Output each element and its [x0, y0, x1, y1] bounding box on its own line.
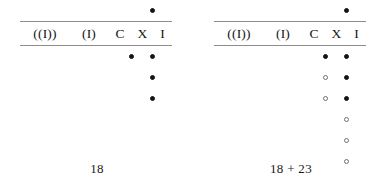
counter-lower-x: [124, 46, 138, 67]
abacus-board-right: ((I)) (I) C X I: [214, 21, 366, 149]
counter-lower-i: [145, 46, 159, 109]
counter-slot: [145, 0, 159, 21]
counter-upper-x: [124, 0, 138, 21]
abacus-board-left: ((I)) (I) C X I: [20, 21, 172, 149]
counter-slot: [145, 88, 159, 109]
counter-upper-x: [318, 0, 332, 21]
counter-stacks-left: [20, 21, 172, 149]
counter-lower-i: [339, 46, 353, 172]
open-counter-icon: [323, 96, 328, 101]
open-counter-icon: [344, 117, 349, 122]
abacus-panel-left: ((I)) (I) C X I: [0, 0, 194, 193]
counter-stacks-right: [214, 21, 366, 149]
counter-upper-c: [295, 0, 309, 21]
counter-upper-mm: [232, 0, 246, 21]
filled-counter-icon: [150, 54, 155, 59]
filled-counter-icon: [150, 75, 155, 80]
counter-slot: [318, 46, 332, 67]
filled-counter-icon: [344, 8, 349, 13]
filled-counter-icon: [344, 96, 349, 101]
counter-lower-x: [318, 46, 332, 109]
filled-counter-icon: [344, 75, 349, 80]
filled-counter-icon: [344, 54, 349, 59]
counter-slot: [339, 88, 353, 109]
counter-slot: [339, 46, 353, 67]
filled-counter-icon: [150, 96, 155, 101]
counter-slot: [145, 67, 159, 88]
abacus-panel-right: ((I)) (I) C X I: [194, 0, 388, 193]
counter-slot: [145, 46, 159, 67]
filled-counter-icon: [129, 54, 134, 59]
filled-counter-icon: [323, 54, 328, 59]
counter-upper-m: [70, 0, 84, 21]
counter-slot: [339, 109, 353, 130]
counter-slot: [318, 88, 332, 109]
open-counter-icon: [344, 138, 349, 143]
panel-caption-right: 18 + 23: [194, 162, 388, 175]
panel-caption-left: 18: [0, 162, 194, 175]
counter-upper-c: [101, 0, 115, 21]
counter-slot: [339, 130, 353, 151]
open-counter-icon: [323, 75, 328, 80]
filled-counter-icon: [150, 8, 155, 13]
counter-upper-m: [264, 0, 278, 21]
counter-slot: [124, 46, 138, 67]
counter-slot: [339, 0, 353, 21]
counter-upper-mm: [38, 0, 52, 21]
abacus-figure: ((I)) (I) C X I: [0, 0, 388, 193]
counter-upper-i: [145, 0, 159, 21]
counter-slot: [339, 67, 353, 88]
counter-slot: [318, 67, 332, 88]
counter-upper-i: [339, 0, 353, 21]
